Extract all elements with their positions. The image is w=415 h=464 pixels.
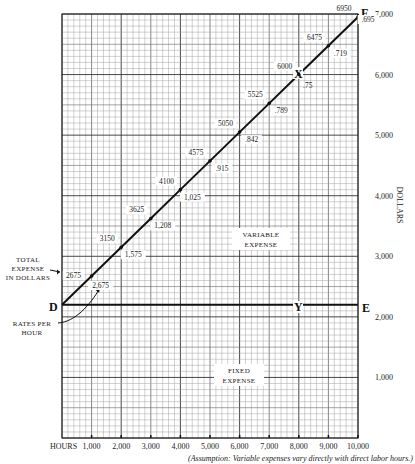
rate-per-hour-value: 1,575 xyxy=(125,250,142,259)
x-tick-label: 5,000 xyxy=(201,442,219,451)
data-point xyxy=(179,188,183,192)
data-point xyxy=(208,159,212,163)
y-tick-label: 4,000 xyxy=(375,192,393,201)
rate-per-hour-value: .695 xyxy=(361,15,374,24)
total-expense-value: 6475 xyxy=(307,33,322,42)
x-tick-label: 10,000 xyxy=(347,442,369,451)
total-expense-arrowhead-icon xyxy=(57,270,60,275)
rates-per-hour-label-1: RATES PER xyxy=(13,320,52,328)
rate-per-hour-value: .915 xyxy=(215,164,228,173)
data-point xyxy=(119,245,123,249)
y-tick-label: 1,000 xyxy=(375,373,393,382)
x-axis-title: HOURS xyxy=(50,442,77,451)
fixed-expense-label-1: FIXED xyxy=(228,367,250,375)
rate-per-hour-value: .842 xyxy=(245,135,258,144)
point-y-label: Y xyxy=(294,300,303,314)
x-tick-label: 1,000 xyxy=(83,442,101,451)
break-even-chart: VARIABLE EXPENSE FIXED EXPENSE TOTAL EXP… xyxy=(0,0,415,464)
rate-per-hour-value: 1,208 xyxy=(154,221,171,230)
x-tick-label: 4,000 xyxy=(171,442,189,451)
point-e-label: E xyxy=(362,301,370,315)
y-tick-label: 2,000 xyxy=(375,313,393,322)
rate-per-hour-value: 1,025 xyxy=(184,193,201,202)
rates-per-hour-label-2: HOUR xyxy=(21,329,42,337)
point-labels: 26752,67531501,57536251,20841001,0254575… xyxy=(63,4,379,290)
total-expense-label-2: EXPENSE xyxy=(12,265,45,273)
assumption-note: (Assumption: Variable expenses vary dire… xyxy=(188,454,413,463)
total-expense-value: 5050 xyxy=(218,119,233,128)
data-point xyxy=(149,217,153,221)
variable-expense-label-2: EXPENSE xyxy=(245,241,278,249)
y-axis-title: DOLLARS xyxy=(395,187,404,224)
data-point xyxy=(327,44,331,48)
data-point xyxy=(238,130,242,134)
x-tick-label: 9,000 xyxy=(319,442,337,451)
point-d-label: D xyxy=(49,300,58,314)
y-tick-label: 3,000 xyxy=(375,252,393,261)
rate-per-hour-value: .75 xyxy=(303,81,313,90)
total-expense-value: 6950 xyxy=(337,4,352,13)
y-tick-label: 6,000 xyxy=(375,71,393,80)
total-expense-label-3: IN DOLLARS xyxy=(6,274,50,282)
data-point xyxy=(297,73,301,77)
x-tick-label: 3,000 xyxy=(142,442,160,451)
fixed-expense-label-2: EXPENSE xyxy=(223,377,256,385)
total-expense-value: 3625 xyxy=(129,205,144,214)
x-tick-label: 6,000 xyxy=(231,442,249,451)
data-point xyxy=(267,102,271,106)
total-expense-label-1: TOTAL xyxy=(16,256,40,264)
total-expense-value: 4575 xyxy=(189,148,204,157)
total-expense-value: 3150 xyxy=(100,234,115,243)
data-point xyxy=(90,274,94,278)
chart-grid xyxy=(62,14,358,438)
y-tick-label: 5,000 xyxy=(375,131,393,140)
x-tick-label: 2,000 xyxy=(112,442,130,451)
total-expense-value: 4100 xyxy=(159,177,174,186)
rate-per-hour-value: .789 xyxy=(275,106,288,115)
rate-per-hour-value: 2,675 xyxy=(92,281,109,290)
variable-expense-label-1: VARIABLE xyxy=(243,231,280,239)
total-expense-value: 5525 xyxy=(248,90,263,99)
total-expense-value: 2675 xyxy=(66,271,81,280)
total-expense-value: 6000 xyxy=(277,62,292,71)
rate-per-hour-value: .719 xyxy=(334,49,347,58)
x-tick-label: 8,000 xyxy=(290,442,308,451)
x-tick-label: 7,000 xyxy=(260,442,278,451)
